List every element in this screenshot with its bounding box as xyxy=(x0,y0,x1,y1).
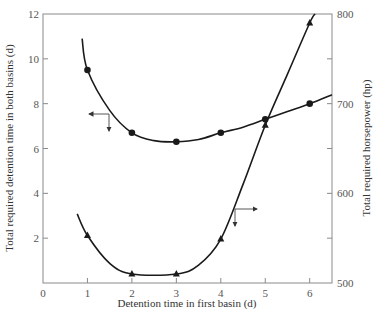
circle-marker xyxy=(218,130,225,137)
x-tick-label: 6 xyxy=(307,287,313,299)
triangle-marker xyxy=(262,121,269,128)
y2-tick-label: 600 xyxy=(337,187,354,199)
y-tick-label: 4 xyxy=(34,187,40,199)
y2-tick-label: 800 xyxy=(337,8,354,20)
x-tick-label: 1 xyxy=(85,287,91,299)
y2-axis-title: Total required horsepower (hp) xyxy=(360,79,373,216)
y2-tick-label: 700 xyxy=(337,98,354,110)
chart-canvas: 012345624681012500600700800 Detention ti… xyxy=(0,0,381,320)
x-tick-label: 0 xyxy=(40,287,46,299)
y-tick-label: 8 xyxy=(34,98,40,110)
plot-border xyxy=(43,14,332,283)
data-curves xyxy=(77,14,332,275)
circle-marker xyxy=(306,100,313,107)
detention-time-curve xyxy=(82,39,332,142)
plot-frame xyxy=(43,14,332,283)
horsepower-curve xyxy=(77,14,315,275)
x-tick-label: 5 xyxy=(263,287,269,299)
y-tick-label: 2 xyxy=(34,232,40,244)
y-tick-label: 10 xyxy=(28,53,40,65)
x-axis-title: Detention time in first basin (d) xyxy=(118,297,257,310)
y-tick-label: 6 xyxy=(34,143,40,155)
circle-marker xyxy=(84,67,91,74)
axis-ticks: 012345624681012500600700800 xyxy=(28,8,354,299)
circle-marker xyxy=(173,138,180,145)
circle-marker xyxy=(129,130,136,137)
y2-tick-label: 500 xyxy=(337,277,354,289)
y-axis-title: Total required detention time in both ba… xyxy=(3,44,16,252)
triangle-marker xyxy=(306,19,313,26)
y-tick-label: 12 xyxy=(28,8,39,20)
data-markers xyxy=(84,19,313,277)
